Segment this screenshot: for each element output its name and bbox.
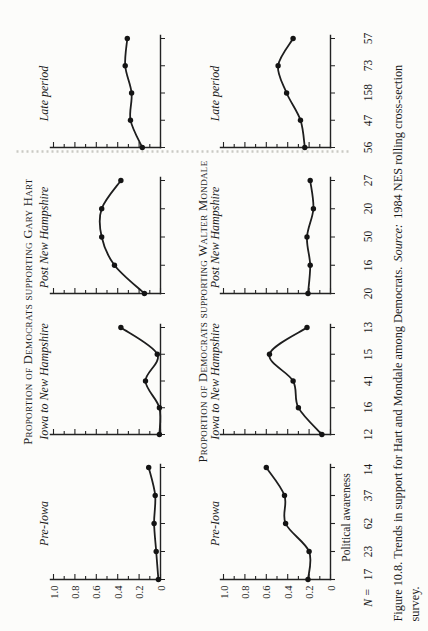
panel-label: Iowa to New Hampshire xyxy=(36,322,50,440)
n-value: 12 xyxy=(361,428,373,440)
data-point xyxy=(139,144,144,149)
caption-text: Figure 10.8. Trends in support for Hart … xyxy=(390,266,404,621)
panel-0-3 xyxy=(50,35,165,150)
panel-label: Pre-Iowa xyxy=(207,501,221,547)
y-tick-label: 1.0 xyxy=(48,585,59,598)
data-point xyxy=(304,234,309,239)
data-point xyxy=(302,144,307,149)
panel-1-0 xyxy=(220,464,335,582)
n-value: 13 xyxy=(361,321,373,333)
data-point xyxy=(152,492,157,497)
data-point xyxy=(151,520,156,525)
panel-1-2 xyxy=(220,177,335,296)
chart-row-0 xyxy=(50,35,165,582)
row-title-hart: Proportion of Democrats supporting Gary … xyxy=(20,178,34,445)
n-value: 41 xyxy=(361,374,373,386)
data-point xyxy=(307,262,312,267)
y-tick-label: 0.4 xyxy=(112,584,123,598)
y-tick-label: 0 xyxy=(155,585,166,590)
panel-0-0 xyxy=(50,464,165,582)
n-value: 20 xyxy=(361,202,373,214)
data-point xyxy=(297,117,302,122)
n-value: 15 xyxy=(361,348,373,360)
data-point xyxy=(128,90,133,95)
n-value: 23 xyxy=(361,545,373,557)
caption-line-1: Figure 10.8. Trends in support for Hart … xyxy=(390,64,404,621)
chart-panels xyxy=(50,35,335,582)
caption-source-label: Source: xyxy=(390,223,404,261)
n-value: 50 xyxy=(361,230,373,242)
y-tick-label: 0.2 xyxy=(133,585,144,598)
caption-source-text: 1984 NES rolling cross-section xyxy=(390,64,404,218)
panel-0-1 xyxy=(50,324,165,437)
data-point xyxy=(118,177,123,182)
y-tick-label: 0.4 xyxy=(282,584,293,598)
y-tick-label: 0.8 xyxy=(239,585,250,598)
data-point xyxy=(118,324,123,329)
panel-1-3 xyxy=(220,35,335,150)
y-tick-label: 0.8 xyxy=(69,585,80,598)
n-equals-label: N = xyxy=(361,588,373,607)
data-point xyxy=(146,464,151,469)
data-point xyxy=(283,90,288,95)
n-value: 73 xyxy=(361,59,373,71)
data-point xyxy=(122,63,127,68)
panel-label: Post New Hampshire xyxy=(207,186,221,289)
n-value: 16 xyxy=(361,259,373,271)
panel-1-1 xyxy=(220,324,335,437)
data-point xyxy=(290,35,295,40)
series-line xyxy=(99,180,144,293)
caption-line-2: survey. xyxy=(407,586,421,621)
n-value: 47 xyxy=(361,114,373,126)
data-point xyxy=(153,548,158,553)
y-tick-label: 1.0 xyxy=(218,585,229,598)
data-point xyxy=(282,520,287,525)
x-axis-title: Political awareness xyxy=(339,472,351,561)
data-point xyxy=(263,464,268,469)
n-value: 158 xyxy=(361,83,373,101)
y-tick-label: 0.2 xyxy=(303,585,314,598)
n-value: 62 xyxy=(361,517,373,529)
n-value: 57 xyxy=(361,32,373,44)
y-tick-label: 0.6 xyxy=(90,585,101,598)
n-value: 16 xyxy=(361,401,373,413)
n-value: 37 xyxy=(361,489,373,501)
scanned-page: Proportion of Democrats supporting Gary … xyxy=(0,0,428,631)
chart-row-1 xyxy=(220,35,335,582)
data-point xyxy=(281,492,286,497)
data-point xyxy=(142,378,147,383)
series-line xyxy=(120,327,160,434)
data-point xyxy=(155,576,160,581)
data-point xyxy=(310,206,315,211)
data-point xyxy=(295,405,300,410)
panel-label: Post New Hampshire xyxy=(36,186,50,289)
series-line xyxy=(277,38,304,147)
panel-label: Late period xyxy=(36,64,50,122)
figure-rotated-canvas: Proportion of Democrats supporting Gary … xyxy=(0,0,428,631)
n-value: 56 xyxy=(361,141,373,153)
panel-label: Iowa to New Hampshire xyxy=(207,322,221,440)
n-value: 20 xyxy=(361,287,373,299)
n-value: 14 xyxy=(361,463,373,475)
n-value: 27 xyxy=(361,174,373,186)
panel-label: Late period xyxy=(207,64,221,122)
panel-label: Pre-Iowa xyxy=(36,501,50,547)
data-point xyxy=(306,548,311,553)
panel-0-2 xyxy=(50,177,165,296)
data-point xyxy=(124,35,129,40)
y-tick-label: 0 xyxy=(325,585,336,590)
data-point xyxy=(307,177,312,182)
figure-10-8: Proportion of Democrats supporting Gary … xyxy=(0,0,428,631)
y-tick-label: 0.6 xyxy=(260,585,271,598)
data-point xyxy=(99,234,104,239)
data-point xyxy=(127,117,132,122)
n-value: 17 xyxy=(361,568,373,580)
